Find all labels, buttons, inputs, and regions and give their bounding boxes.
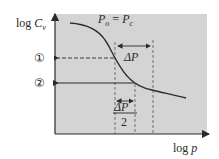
x-axis-label: log p [173,141,197,155]
marker-2-symbol: ② [34,76,45,90]
plot-area [55,14,207,134]
curve-label-rhs-sub: c [129,19,133,28]
curve-label: Po = Pc [97,12,133,28]
half-delta-p-numerator: ΔP [113,100,129,114]
curve-label-eq: = [109,12,122,26]
compression-curve-diagram: log Cv log p Po = Pc ① ② ΔP ΔP 2 [0,0,219,159]
y-axis-label-sub: v [42,23,46,32]
y-axis-label-prefix: log [16,16,34,30]
x-axis-label-prefix: log [173,141,191,155]
y-axis-label: log Cv [16,16,46,32]
delta-p-label: ΔP [123,50,139,64]
marker-1-symbol: ① [34,51,45,65]
x-axis-label-var: p [190,141,197,155]
half-delta-p-denominator: 2 [121,115,127,129]
